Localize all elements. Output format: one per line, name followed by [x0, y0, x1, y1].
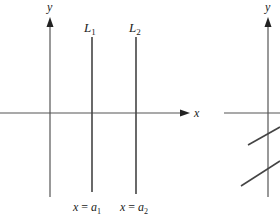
- right-y-axis-label: y: [264, 0, 271, 14]
- slanted-line-lower: [241, 161, 280, 186]
- line-l2-equation: x = a2: [119, 200, 148, 216]
- line-l1-equation: x = a1: [72, 200, 101, 216]
- slanted-line-upper: [248, 127, 280, 145]
- x-axis-arrow-icon: [180, 110, 190, 117]
- x-axis-label: x: [193, 106, 200, 120]
- y-axis-arrow-icon: [47, 17, 54, 27]
- diagram-canvas: x y L1 L2 x = a1 x = a2 y: [0, 0, 280, 218]
- line-l1-label: L1: [83, 20, 96, 37]
- right-y-axis-arrow-icon: [265, 17, 272, 27]
- left-panel: x y L1 L2 x = a1 x = a2: [0, 0, 200, 216]
- y-axis-label: y: [46, 0, 53, 14]
- line-l2-label: L2: [128, 20, 141, 37]
- right-panel: y: [224, 0, 280, 197]
